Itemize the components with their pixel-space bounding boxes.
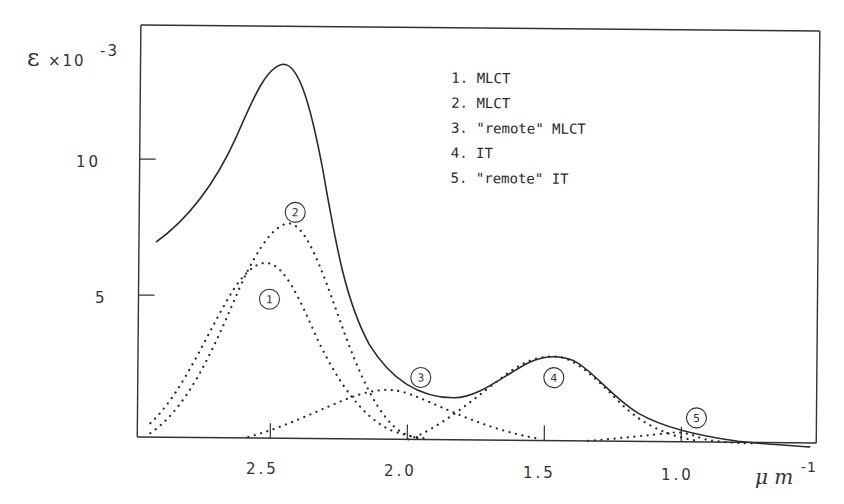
marker-3: 3	[411, 367, 431, 387]
x-tick-label-2.5: 2.5	[246, 460, 279, 478]
y-axis-label: ε ×10 -3	[27, 42, 119, 72]
svg-text:2: 2	[292, 206, 299, 219]
x-tick-label-1.5: 1.5	[523, 464, 556, 482]
band-4-it-curve	[408, 355, 699, 442]
marker-2: 2	[285, 202, 305, 222]
legend-item-3: 3. "remote" MLCT	[451, 120, 587, 137]
marker-1: 1	[259, 289, 279, 309]
y-axis	[137, 25, 141, 437]
band-2-mlct-curve	[150, 222, 425, 439]
svg-text:5: 5	[693, 412, 700, 425]
marker-5: 5	[686, 408, 706, 428]
svg-text:×10: ×10	[48, 52, 86, 70]
svg-text:μ m: μ m	[755, 465, 793, 489]
band-1-mlct-curve	[150, 262, 430, 439]
absorption-spectrum-chart: 1 2 3 4 5 1. MLCT 2. MLCT 3. "remote" ML…	[0, 0, 844, 504]
y-tick-label-5: 5	[95, 289, 108, 307]
svg-text:1: 1	[266, 293, 273, 306]
plot-frame-top	[141, 25, 820, 31]
svg-text:-1: -1	[801, 459, 817, 475]
plot-frame-right	[816, 31, 820, 443]
svg-text:4: 4	[550, 372, 557, 385]
legend-item-2: 2. MLCT	[451, 95, 511, 112]
legend-item-5: 5. "remote" IT	[450, 170, 569, 187]
x-tick-label-1.0: 1.0	[661, 466, 694, 484]
x-axis-label: μ m -1	[755, 459, 817, 489]
svg-text:ε: ε	[27, 44, 39, 72]
legend-item-4: 4. IT	[451, 145, 494, 161]
legend-item-1: 1. MLCT	[451, 70, 511, 87]
svg-text:-3: -3	[100, 42, 119, 60]
marker-4: 4	[544, 368, 564, 388]
x-tick-label-2.0: 2.0	[384, 462, 417, 480]
band-3-remote-mlct-curve	[248, 389, 538, 440]
y-tick-label-10: 10	[76, 153, 101, 171]
legend: 1. MLCT 2. MLCT 3. "remote" MLCT 4. IT 5…	[450, 70, 586, 187]
svg-text:3: 3	[417, 371, 424, 384]
